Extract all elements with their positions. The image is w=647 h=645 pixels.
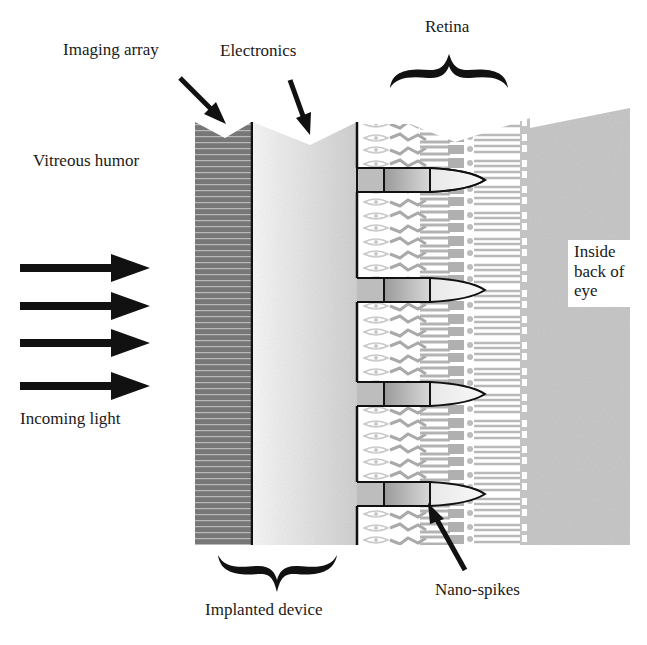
imaging-array [195,122,252,545]
nano-spike [357,482,485,506]
label-inside-back-of-eye: Inside back of eye [568,240,636,307]
label-retina: Retina [425,17,469,37]
back-of-eye [530,108,630,545]
light-arrow-icon [20,254,150,282]
electronics-layer [253,122,357,545]
diagram-graphic [0,0,647,645]
incoming-light-arrows [20,254,150,400]
light-arrow-icon [20,292,150,320]
label-electronics: Electronics [220,41,296,61]
nano-spike [357,168,485,192]
label-incoming-light: Incoming light [20,409,121,429]
imaging-array-arrow-icon [180,78,226,124]
nano-spike [357,278,485,302]
retinal-implant-diagram: Imaging array Electronics Retina Vitreou… [0,0,647,645]
retina-brace-icon [390,54,508,88]
implanted-device-brace-icon [218,555,337,592]
label-imaging-array: Imaging array [63,40,159,60]
label-vitreous-humor: Vitreous humor [33,151,139,171]
light-arrow-icon [20,372,150,400]
nano-spike [357,382,485,406]
label-nano-spikes: Nano-spikes [435,580,520,600]
electronics-arrow-icon [290,80,311,135]
label-implanted-device: Implanted device [205,600,323,620]
light-arrow-icon [20,329,150,357]
